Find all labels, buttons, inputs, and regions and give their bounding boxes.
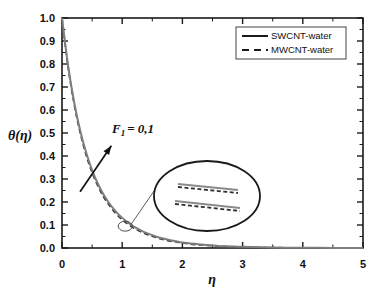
- y-tick-label: 0.4: [40, 150, 56, 162]
- y-tick-label: 0.5: [40, 127, 55, 139]
- x-tick-label: 4: [300, 258, 307, 270]
- y-tick-label: 0.1: [40, 219, 55, 231]
- legend: SWCNT-water MWCNT-water: [236, 27, 346, 59]
- x-tick-label: 3: [240, 258, 246, 270]
- y-tick-label: 1.0: [40, 12, 55, 24]
- x-axis-tick-labels: 012345: [59, 258, 366, 270]
- legend-label-mwcnt-water: MWCNT-water: [271, 44, 333, 55]
- y-tick-label: 0.0: [40, 242, 55, 254]
- y-tick-label: 0.6: [40, 104, 55, 116]
- y-axis-title: θ(η): [8, 128, 32, 144]
- y-tick-label: 0.9: [40, 35, 55, 47]
- y-tick-label: 0.8: [40, 58, 55, 70]
- x-tick-label: 2: [179, 258, 185, 270]
- y-tick-label: 0.2: [40, 196, 55, 208]
- legend-label-swcnt-water: SWCNT-water: [271, 30, 332, 41]
- y-tick-label: 0.3: [40, 173, 55, 185]
- x-axis-title: η: [208, 272, 216, 287]
- chart-figure: 0.00.10.20.30.40.50.60.70.80.91.0 012345…: [0, 0, 379, 290]
- parameter-annotation-label: F1= 0,1: [111, 121, 154, 138]
- chart-svg: 0.00.10.20.30.40.50.60.70.80.91.0 012345…: [0, 0, 379, 290]
- y-tick-label: 0.7: [40, 81, 55, 93]
- x-tick-label: 0: [59, 258, 65, 270]
- x-tick-label: 1: [119, 258, 125, 270]
- inset-ellipse: [154, 161, 260, 231]
- x-tick-label: 5: [360, 258, 366, 270]
- y-axis-tick-labels: 0.00.10.20.30.40.50.60.70.80.91.0: [40, 12, 56, 254]
